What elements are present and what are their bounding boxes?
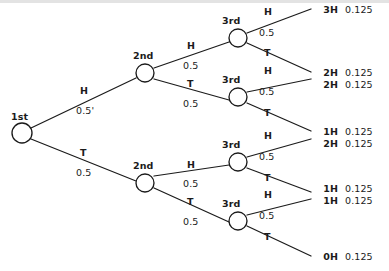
outcome-probability: 0.125: [345, 127, 373, 137]
branch-label-3rd2-H: H: [264, 66, 272, 76]
edge-3rd1-to-outcome-1: [247, 9, 311, 33]
stage-label-3rd-4: 3rd: [222, 199, 240, 209]
outcome-probability: 0.125: [345, 80, 373, 90]
branch-label-3rd3-H: H: [264, 131, 272, 141]
node-3rd-3: [229, 153, 247, 171]
node-1st: [12, 123, 32, 143]
branch-prob-2ndtop-H: 0.5: [183, 61, 198, 71]
edge-3rd2-to-outcome-3: [247, 79, 311, 92]
probability-tree-diagram: 1st 2nd 2nd 3rd 3rd 3rd 3rd H 0.5' T 0.5…: [0, 0, 389, 271]
outcome-count: 2H: [318, 80, 338, 90]
outcome-count: 1H: [318, 196, 338, 206]
outcome-probability: 0.125: [345, 196, 373, 206]
outcome-count: 0H: [318, 252, 338, 262]
branch-label-3rd2-T: T: [264, 108, 271, 118]
node-3rd-1: [229, 29, 247, 47]
branch-label-1st-T: T: [80, 148, 87, 158]
edge-3rd3-to-outcome-6: [247, 168, 311, 192]
branch-prob-3rd1-H: 0.5: [259, 28, 274, 38]
edge-3rd3-to-outcome-5: [247, 139, 311, 157]
branch-prob-2ndtop-T: 0.5: [183, 99, 198, 109]
branch-prob-3rd4-H: 0.5: [259, 211, 274, 221]
node-2nd-top: [136, 64, 154, 82]
edge-3rd4-to-outcome-7: [247, 199, 311, 215]
branch-prob-1st-T: 0.5: [76, 168, 91, 178]
branch-label-3rd4-T: T: [264, 232, 271, 242]
node-2nd-bottom: [136, 174, 154, 192]
edge-3rd2-to-outcome-4: [247, 103, 311, 131]
branch-label-2ndbottom-T: T: [187, 197, 194, 207]
outcome-count: 2H: [318, 139, 338, 149]
edge-3rd4-to-outcome-8: [247, 226, 311, 256]
stage-label-3rd-3: 3rd: [222, 140, 240, 150]
outcome-probability: 0.125: [345, 139, 373, 149]
outcome-probability: 0.125: [345, 5, 373, 15]
branch-prob-3rd3-H: 0.5: [259, 152, 274, 162]
outcome-probability: 0.125: [345, 68, 373, 78]
branch-label-3rd3-T: T: [264, 173, 271, 183]
outcome-count: 1H: [318, 127, 338, 137]
branch-label-2ndbottom-H: H: [187, 160, 195, 170]
stage-label-3rd-1: 3rd: [222, 16, 240, 26]
edge-3rd1-to-outcome-2: [247, 43, 311, 72]
outcome-count: 1H: [318, 184, 338, 194]
branch-label-3rd4-H: H: [264, 190, 272, 200]
outcome-probability: 0.125: [345, 184, 373, 194]
branch-label-1st-H: H: [80, 86, 88, 96]
branch-label-3rd1-H: H: [264, 7, 272, 17]
node-3rd-4: [229, 212, 247, 230]
outcome-count: 2H: [318, 68, 338, 78]
branch-prob-2ndbottom-T: 0.5: [183, 217, 198, 227]
node-3rd-2: [229, 88, 247, 106]
branch-prob-2ndbottom-H: 0.5: [183, 179, 198, 189]
branch-label-3rd1-T: T: [264, 48, 271, 58]
outcome-probability: 0.125: [345, 252, 373, 262]
stage-label-2nd-top: 2nd: [133, 51, 153, 61]
stage-label-2nd-bottom: 2nd: [133, 161, 153, 171]
branch-prob-1st-H: 0.5': [76, 106, 94, 116]
stage-label-3rd-2: 3rd: [222, 75, 240, 85]
branch-prob-3rd2-H: 0.5: [259, 87, 274, 97]
branch-label-2ndtop-H: H: [187, 41, 195, 51]
outcome-count: 3H: [318, 5, 338, 15]
stage-label-1st: 1st: [11, 112, 28, 122]
branch-label-2ndtop-T: T: [187, 79, 194, 89]
